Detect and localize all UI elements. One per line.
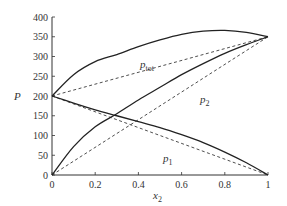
y-tick-label: 400 (33, 12, 48, 23)
x-tick-label: 0.4 (132, 179, 145, 190)
y-tick-label: 200 (33, 91, 48, 102)
data-series (52, 30, 268, 175)
x-tick-label: 0.2 (89, 179, 102, 190)
annotation-p2: p2 (199, 93, 210, 108)
x-tick-label: 0.6 (175, 179, 188, 190)
x-axis-label: x2 (152, 189, 162, 204)
y-tick-label: 250 (33, 71, 48, 82)
x-tick-label: 0.8 (219, 179, 232, 190)
axes (52, 17, 268, 175)
x-tick-label: 1 (266, 179, 271, 190)
series-ptot (52, 30, 268, 96)
y-tick-label: 50 (38, 150, 48, 161)
annotation-ptot: ptot (139, 58, 155, 73)
y-axis-label: P (13, 90, 21, 102)
annotation-p1: p1 (162, 152, 173, 167)
y-tick-label: 350 (33, 31, 48, 42)
x-tick-label: 0 (50, 179, 55, 190)
vapor-pressure-chart: 05010015020025030035040000.20.40.60.81 P… (0, 0, 287, 206)
y-tick-label: 150 (33, 110, 48, 121)
y-tick-label: 300 (33, 51, 48, 62)
y-tick-label: 0 (43, 170, 48, 181)
y-tick-label: 100 (33, 130, 48, 141)
